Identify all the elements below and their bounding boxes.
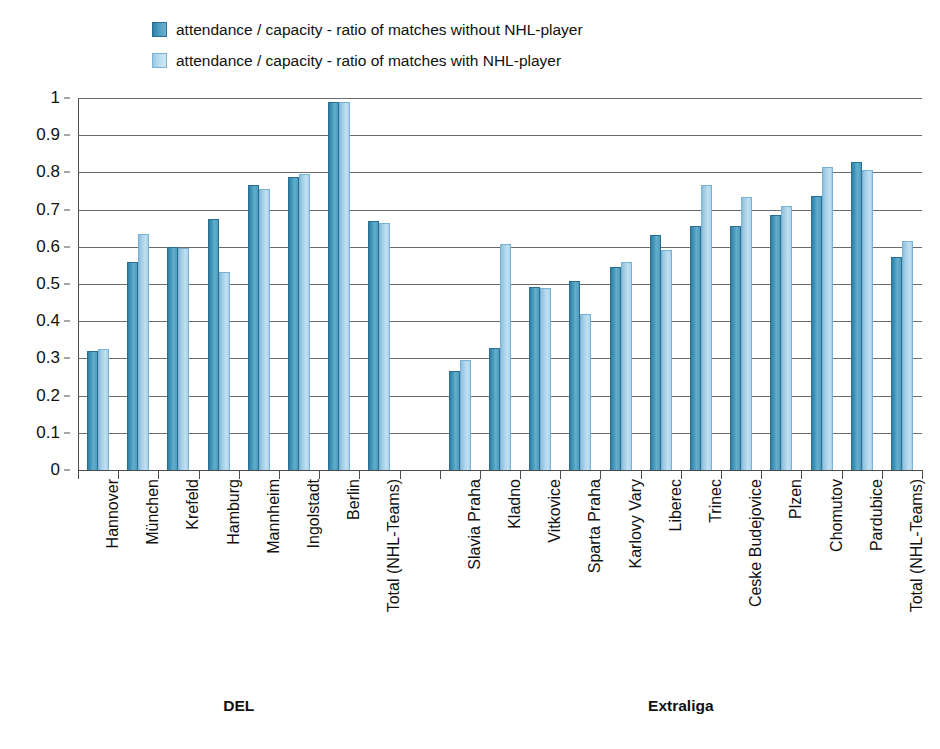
bar-without-nhl-player (730, 226, 741, 470)
bar-without-nhl-player (489, 348, 500, 470)
x-axis-category-label-wrap: München (145, 479, 161, 545)
bar-with-nhl-player (178, 248, 189, 470)
x-axis-category-label: Mannheim (266, 479, 282, 554)
x-axis-category-label: Total (NHL-Teams) (909, 479, 925, 612)
bar-without-nhl-player (770, 215, 781, 470)
bar-without-nhl-player (167, 247, 178, 470)
bar-without-nhl-player (449, 371, 460, 470)
plot-area (78, 98, 922, 470)
bar-with-nhl-player (98, 349, 109, 470)
x-axis-tick-mark (721, 470, 722, 479)
bar-with-nhl-player (661, 250, 672, 470)
bar-with-nhl-player (701, 185, 712, 470)
x-axis-category-label-wrap: Hamburg (226, 479, 242, 545)
x-axis-tick-mark (239, 470, 240, 479)
bar-with-nhl-player (902, 241, 913, 470)
bar-with-nhl-player (259, 189, 270, 470)
x-axis-tick-mark (600, 470, 601, 479)
x-axis-tick-mark (801, 470, 802, 479)
group-title-del: DEL (223, 697, 254, 715)
x-axis-category-label-wrap: Vitkovice (547, 479, 563, 543)
bar-without-nhl-player (569, 281, 580, 470)
x-axis-category-label: Krefeld (185, 479, 201, 530)
bar-with-nhl-player (299, 174, 310, 470)
bar-with-nhl-player (580, 314, 591, 470)
bar-without-nhl-player (891, 257, 902, 470)
y-axis-tick-label: 0 (51, 460, 60, 480)
y-axis-tick-label: 0.6 (36, 237, 60, 257)
x-axis-category-label: Plzen (788, 479, 804, 519)
x-axis-category-label: Kladno (507, 479, 523, 529)
x-axis-category-label: Vitkovice (547, 479, 563, 543)
legend-label-with-nhl-player: attendance / capacity - ratio of matches… (176, 52, 561, 69)
y-axis-tick-label: 1 (51, 88, 60, 108)
x-axis-category-label: Chomutov (829, 479, 845, 552)
legend-item-with-nhl-player: attendance / capacity - ratio of matches… (152, 45, 852, 76)
legend-label-without-nhl-player: attendance / capacity - ratio of matches… (176, 21, 583, 38)
x-axis-category-label-wrap: Plzen (788, 479, 804, 519)
x-axis-category-label: Hamburg (226, 479, 242, 545)
x-axis-tick-mark (279, 470, 280, 479)
y-axis-tick-label: 0.4 (36, 311, 60, 331)
bar-without-nhl-player (690, 226, 701, 470)
y-axis-tick-mark (64, 321, 70, 322)
x-axis-tick-mark (882, 470, 883, 479)
legend-item-without-nhl-player: attendance / capacity - ratio of matches… (152, 14, 852, 45)
x-axis-category-label: Ceske Budejovice (748, 479, 764, 607)
bar-with-nhl-player (219, 272, 230, 470)
x-axis-tick-mark (641, 470, 642, 479)
x-axis-category-label: Berlin (346, 479, 362, 520)
x-axis-category-label: Total (NHL-Teams) (386, 479, 402, 612)
x-axis-category-label-wrap: Kladno (507, 479, 523, 529)
y-axis-tick-label: 0.5 (36, 274, 60, 294)
bar-with-nhl-player (500, 244, 511, 470)
x-axis-category-label: Liberec (668, 479, 684, 531)
x-axis-tick-mark (761, 470, 762, 479)
x-axis-category-label: Hannover (105, 479, 121, 548)
bar-with-nhl-player (781, 206, 792, 470)
bar-without-nhl-player (811, 196, 822, 470)
x-axis-category-label: Trinec (708, 479, 724, 523)
y-axis-labels: 00.10.20.30.40.50.60.70.80.91 (0, 98, 70, 470)
x-axis-category-label-wrap: Trinec (708, 479, 724, 523)
legend-swatch-without-nhl-player (152, 22, 167, 37)
bar-with-nhl-player (741, 197, 752, 470)
x-axis-category-label-wrap: Berlin (346, 479, 362, 520)
bar-with-nhl-player (460, 360, 471, 470)
bar-without-nhl-player (851, 162, 862, 470)
bar-with-nhl-player (862, 170, 873, 470)
x-axis-tick-mark (440, 470, 441, 479)
attendance-capacity-bar-chart: attendance / capacity - ratio of matches… (0, 0, 940, 749)
x-axis-tick-mark (78, 470, 79, 479)
y-axis-tick-mark (64, 284, 70, 285)
y-axis-tick-label: 0.9 (36, 125, 60, 145)
x-axis-category-label-wrap: Slavia Praha (467, 479, 483, 570)
x-axis-tick-mark (319, 470, 320, 479)
x-axis-tick-mark (842, 470, 843, 479)
bar-without-nhl-player (127, 262, 138, 470)
bar-with-nhl-player (138, 234, 149, 470)
bar-without-nhl-player (208, 219, 219, 470)
y-axis-tick-mark (64, 395, 70, 396)
x-axis-category-label-wrap: Chomutov (829, 479, 845, 552)
x-axis-category-label-wrap: Ingolstadt (306, 479, 322, 548)
chart-legend: attendance / capacity - ratio of matches… (152, 14, 852, 76)
bar-with-nhl-player (339, 102, 350, 470)
x-axis-category-label: Sparta Praha (587, 479, 603, 573)
x-axis-category-label-wrap: Karlovy Vary (628, 479, 644, 569)
x-axis-category-label: Karlovy Vary (628, 479, 644, 569)
y-axis-tick-label: 0.2 (36, 386, 60, 406)
bar-with-nhl-player (822, 167, 833, 470)
y-axis-tick-label: 0.7 (36, 200, 60, 220)
x-axis-tick-mark (359, 470, 360, 479)
bar-without-nhl-player (610, 267, 621, 470)
x-axis-category-label: Ingolstadt (306, 479, 322, 548)
bar-with-nhl-player (621, 262, 632, 470)
bar-without-nhl-player (248, 185, 259, 470)
x-axis-category-label-wrap: Ceske Budejovice (748, 479, 764, 607)
x-axis-tick-mark (480, 470, 481, 479)
y-axis-tick-label: 0.3 (36, 348, 60, 368)
bar-without-nhl-player (288, 177, 299, 470)
x-axis-category-label: Slavia Praha (467, 479, 483, 570)
y-axis-tick-mark (64, 358, 70, 359)
